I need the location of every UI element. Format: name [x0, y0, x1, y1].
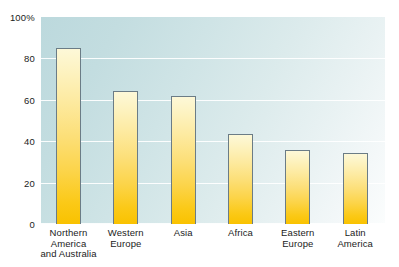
gridline — [41, 100, 385, 101]
gridline — [41, 141, 385, 142]
bar-western-europe — [113, 91, 138, 225]
plot-area — [41, 17, 385, 224]
y-axis-tick: 40 — [24, 136, 35, 147]
x-axis-label-line: Europe — [83, 239, 169, 250]
bar-asia — [171, 96, 196, 224]
x-axis-label-line: America — [312, 239, 398, 250]
x-axis: Northern America and Australia Western E… — [41, 228, 385, 267]
x-axis-label-latin-america: Latin America — [312, 228, 398, 249]
y-axis-tick: 100% — [10, 12, 35, 23]
bar-africa — [228, 134, 253, 224]
bar-latin-america — [343, 153, 368, 224]
x-axis-label-line: and Australia — [26, 249, 112, 260]
bar-chart: 100% 80 60 40 20 0 Northern America and … — [0, 0, 399, 267]
gridline — [41, 58, 385, 59]
y-axis-tick: 60 — [24, 94, 35, 105]
bar-northern-america-and-australia — [56, 48, 81, 224]
gridline — [41, 183, 385, 184]
y-axis: 100% 80 60 40 20 0 — [0, 0, 38, 267]
x-axis-label-line: Latin — [312, 228, 398, 239]
gridline — [41, 223, 385, 224]
y-axis-tick: 80 — [24, 53, 35, 64]
y-axis-tick: 20 — [24, 177, 35, 188]
bar-eastern-europe — [285, 150, 310, 225]
